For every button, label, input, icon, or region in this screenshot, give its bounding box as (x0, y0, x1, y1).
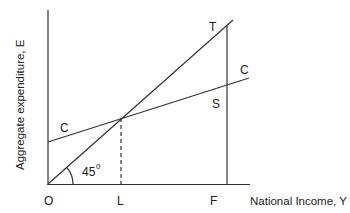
x-tick-l: L (117, 194, 124, 208)
c-label-left: C (60, 121, 69, 135)
s-label: S (212, 97, 220, 111)
x-tick-f: F (210, 194, 217, 208)
angle-arc (67, 167, 73, 184)
angle-degree-sup: 0 (96, 162, 101, 171)
x-axis-title: National Income, Y (250, 195, 347, 207)
origin-label: O (44, 194, 53, 208)
y-axis-title: Aggregate expenditure, E (14, 39, 26, 170)
angle-label: 45 (82, 165, 96, 179)
c-label-right: C (240, 63, 249, 77)
keynesian-cross-diagram: 45 0 T C C S O L F National Income, Y Ag… (0, 0, 350, 213)
forty-five-degree-line (48, 20, 233, 184)
t-label: T (209, 20, 217, 34)
